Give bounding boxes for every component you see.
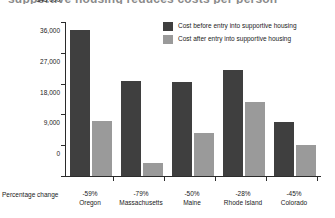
y-axis-tick-9000 [61,145,66,146]
legend-item-before[interactable]: Cost before entry into supportive housin… [163,21,297,32]
bar-maine-before[interactable] [172,82,192,176]
category-label-colorado: Colorado [262,198,326,207]
y-axis-tick-18000 [61,114,66,115]
legend-swatch-after [163,35,173,44]
bar-chart: supportive housing reduces costs per per… [0,0,335,218]
x-axis-tick-2 [164,176,165,181]
x-axis-label-colorado: -45% Colorado [262,189,326,207]
y-axis-tick-36000 [61,53,66,54]
bar-rhode-island-before[interactable] [223,70,243,176]
y-axis-tick-label-45000: $45,000 [4,0,60,4]
x-axis-line [65,176,321,177]
bar-colorado-after[interactable] [296,145,316,176]
chart-legend: Cost before entry into supportive housin… [163,21,297,47]
bar-oregon-after[interactable] [92,121,112,176]
y-axis-tick-label-0: 0 [4,151,60,158]
pct-change-colorado: -45% [262,189,326,198]
legend-label-before: Cost before entry into supportive housin… [178,23,297,30]
bar-maine-after[interactable] [194,133,214,176]
legend-swatch-before [163,22,173,31]
legend-label-after: Cost after entry into supportive housing [178,36,291,43]
y-axis-tick-label-9000: 9,000 [4,120,60,127]
y-axis-tick-label-18000: 18,000 [4,90,60,97]
bar-colorado-before[interactable] [274,122,294,176]
bar-rhode-island-after[interactable] [245,102,265,176]
y-axis-tick-45000 [61,22,66,23]
bar-massachusetts-after[interactable] [143,163,163,176]
y-axis-tick-label-36000: 36,000 [4,28,60,35]
x-axis-tick-4 [266,176,267,181]
y-axis-tick-27000 [61,84,66,85]
x-axis-tick-1 [113,176,114,181]
legend-item-after[interactable]: Cost after entry into supportive housing [163,34,297,45]
x-axis-tick-3 [215,176,216,181]
y-axis-tick-label-27000: 27,000 [4,59,60,66]
bar-massachusetts-before[interactable] [121,81,141,176]
x-axis-tick-5 [317,176,318,181]
percentage-change-row-label: Percentage change [2,191,58,198]
y-axis-tick-0 [61,176,66,177]
bar-oregon-before[interactable] [70,30,90,176]
y-axis-line [65,22,66,177]
